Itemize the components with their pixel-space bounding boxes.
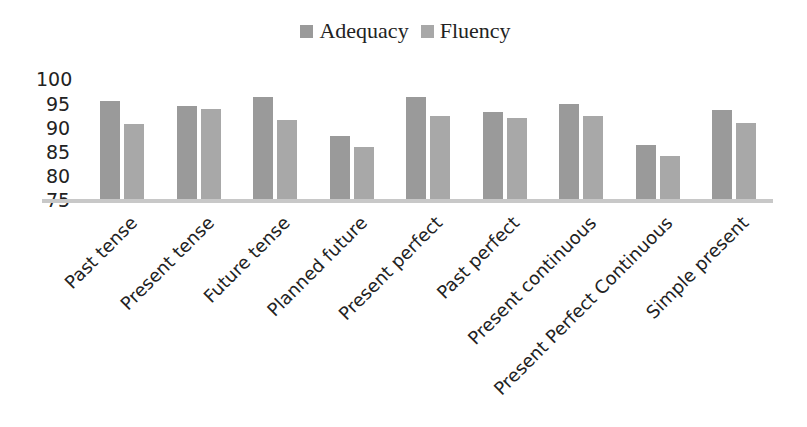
x-axis-line [42,199,773,203]
y-tick-90: 90 [46,119,106,138]
bar-adequacy-8 [712,110,732,200]
bar-adequacy-4 [406,97,426,200]
y-tick-85: 85 [46,143,106,162]
legend-item-fluency: Fluency [417,18,511,44]
bar-fluency-0 [124,124,144,200]
bar-fluency-8 [736,123,756,200]
bar-fluency-4 [430,116,450,200]
bar-fluency-7 [660,156,680,200]
bar-adequacy-7 [636,145,656,200]
bar-adequacy-0 [100,101,120,200]
x-label-6: Present continuous [463,212,600,349]
bar-adequacy-1 [177,106,197,200]
bar-fluency-6 [583,116,603,200]
chart-legend: Adequacy Fluency [0,18,807,44]
bar-fluency-5 [507,118,527,200]
legend-label-adequacy: Adequacy [319,18,408,44]
y-tick-95: 95 [46,95,106,114]
y-tick-100: 100 [36,70,96,89]
adequacy-swatch-icon [300,25,313,38]
bar-fluency-3 [354,147,374,200]
legend-item-adequacy: Adequacy [296,18,408,44]
bar-fluency-1 [201,109,221,200]
fluency-swatch-icon [421,25,434,38]
bar-adequacy-6 [559,104,579,200]
bar-adequacy-3 [330,136,350,200]
legend-label-fluency: Fluency [440,18,511,44]
bar-fluency-2 [277,120,297,200]
bar-adequacy-5 [483,112,503,200]
bar-adequacy-2 [253,97,273,200]
y-tick-80: 80 [46,167,106,186]
x-label-0: Past tense [60,212,141,293]
